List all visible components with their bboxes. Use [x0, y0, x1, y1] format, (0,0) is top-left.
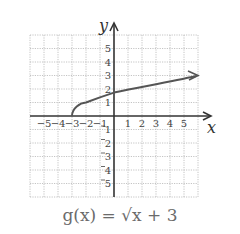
svg-text:3: 3 — [105, 70, 111, 81]
svg-text:4: 4 — [105, 165, 111, 176]
svg-text:−5: −5 — [37, 118, 52, 129]
svg-text:−2: −2 — [79, 118, 94, 129]
svg-text:5: 5 — [105, 43, 111, 54]
svg-text:4: 4 — [167, 118, 173, 129]
svg-text:1: 1 — [105, 97, 111, 108]
svg-text:2: 2 — [139, 118, 145, 129]
svg-text:2: 2 — [105, 138, 111, 149]
function-curve — [72, 71, 198, 116]
svg-text:5: 5 — [181, 118, 187, 129]
svg-text:4: 4 — [105, 57, 111, 68]
svg-text:1: 1 — [125, 118, 131, 129]
svg-text:−4: −4 — [51, 118, 66, 129]
svg-text:3: 3 — [153, 118, 159, 129]
graph: x y −5−4−3 −2−1 123 45 543 21 123 45 — [0, 0, 240, 234]
x-axis-label: x — [207, 118, 216, 137]
svg-text:1: 1 — [105, 124, 111, 135]
svg-text:5: 5 — [105, 178, 111, 189]
x-tick-labels: −5−4−3 −2−1 123 45 — [37, 118, 188, 129]
function-caption: g(x) = √x + 3 — [0, 205, 240, 225]
y-axis-label: y — [98, 16, 109, 35]
svg-text:3: 3 — [105, 151, 111, 162]
svg-text:−3: −3 — [65, 118, 80, 129]
